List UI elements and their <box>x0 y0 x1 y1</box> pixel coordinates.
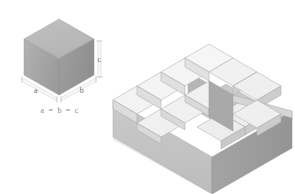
figure-root: a b c a = b = c <box>0 0 295 194</box>
dimension-c: c <box>96 41 103 77</box>
cube-label-c: c <box>98 55 102 64</box>
illustration-canvas: a b c a = b = c <box>0 0 295 194</box>
cube-equation: a = b = c <box>41 106 80 115</box>
cube-label-a: a <box>34 86 38 95</box>
staircase-group <box>113 44 292 194</box>
cube-group: a b c a = b = c <box>22 19 103 115</box>
cube-label-b: b <box>80 86 84 95</box>
